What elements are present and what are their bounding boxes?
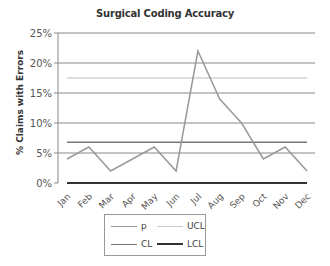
y-tick-label: 20%: [30, 58, 52, 69]
y-axis-ticks: 0%5%10%15%20%25%: [30, 28, 52, 189]
legend-item-p: p: [111, 221, 147, 231]
x-tick-label: Jan: [55, 191, 73, 209]
legend-swatch-lcl: [157, 243, 183, 245]
legend-swatch-ucl: [157, 226, 183, 227]
y-tick-label: 0%: [36, 178, 52, 189]
legend-label-p: p: [141, 221, 147, 231]
y-tick-label: 15%: [30, 88, 52, 99]
legend-label-lcl: LCL: [187, 239, 203, 249]
legend-item-lcl: LCL: [157, 239, 203, 249]
legend-label-ucl: UCL: [187, 221, 205, 231]
x-tick-label: Mar: [97, 191, 116, 210]
legend: p UCL CL LCL: [104, 214, 206, 256]
x-tick-label: Apr: [120, 191, 138, 209]
legend-swatch-cl: [111, 244, 137, 245]
x-tick-label: Jun: [164, 191, 182, 209]
legend-item-ucl: UCL: [157, 221, 205, 231]
x-tick-label: Feb: [76, 191, 95, 210]
x-tick-label: Dec: [293, 191, 312, 210]
legend-label-cl: CL: [141, 239, 152, 249]
x-tick-label: Aug: [206, 191, 226, 211]
y-tick-label: 10%: [30, 118, 52, 129]
x-axis-ticks: JanFebMarAprMayJunJulAugSepOctNovDec: [55, 191, 313, 212]
x-tick-label: Jul: [188, 191, 203, 206]
x-tick-label: May: [139, 191, 160, 212]
gridlines: [54, 33, 315, 183]
x-tick-label: Oct: [251, 191, 269, 209]
y-tick-label: 25%: [30, 28, 52, 39]
legend-swatch-p: [111, 226, 137, 227]
y-tick-label: 5%: [36, 148, 52, 159]
x-tick-label: Sep: [228, 191, 247, 210]
legend-item-cl: CL: [111, 239, 152, 249]
data-lines: [67, 51, 307, 183]
x-tick-label: Nov: [271, 191, 291, 211]
